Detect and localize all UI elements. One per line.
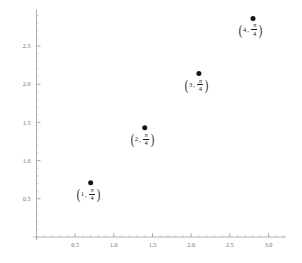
fraction-numerator: π (199, 78, 202, 85)
label-open-paren: ( (185, 79, 189, 91)
point-label: (3,π4) (184, 78, 209, 93)
label-comma: , (247, 27, 250, 34)
label-fraction: π4 (88, 187, 96, 202)
label-close-paren: ) (259, 24, 263, 36)
fraction-denominator: 4 (199, 85, 202, 92)
label-open-paren: ( (239, 24, 243, 36)
fraction-denominator: 4 (253, 30, 256, 37)
label-fraction: π4 (142, 132, 150, 147)
label-close-paren: ) (151, 133, 155, 145)
label-close-paren: ) (97, 188, 101, 200)
fraction-denominator: 4 (90, 194, 93, 201)
label-fraction: π4 (196, 78, 204, 93)
label-open-paren: ( (131, 133, 135, 145)
point-label: (1,π4) (76, 187, 101, 202)
label-comma: , (193, 82, 196, 89)
label-close-paren: ) (205, 79, 209, 91)
label-comma: , (139, 137, 142, 144)
scatter-plot-figure: 0.51.01.52.02.53.00.51.01.52.02.5 (1,π4)… (0, 0, 302, 263)
point-labels-layer: (1,π4)(2,π4)(3,π4)(4,π4) (0, 0, 302, 263)
fraction-numerator: π (90, 187, 93, 194)
fraction-denominator: 4 (145, 139, 148, 146)
label-open-paren: ( (76, 188, 80, 200)
label-comma: , (85, 192, 88, 199)
label-fraction: π4 (250, 22, 258, 37)
point-label: (4,π4) (238, 22, 263, 37)
fraction-numerator: π (145, 132, 148, 139)
fraction-numerator: π (253, 22, 256, 29)
point-label: (2,π4) (130, 132, 155, 147)
